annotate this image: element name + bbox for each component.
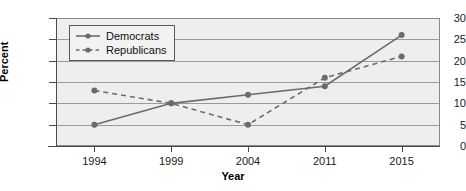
x-tick-mark — [248, 146, 249, 152]
x-axis-line — [48, 146, 440, 147]
x-tick-label: 2011 — [313, 155, 337, 167]
chart-legend: Democrats Republicans — [69, 25, 175, 61]
y-tick-mark — [49, 61, 56, 62]
x-tick-mark — [402, 146, 403, 152]
legend-key-solid-line-icon — [75, 30, 101, 42]
y-axis-label: Percent — [0, 42, 10, 82]
x-tick-label: 2015 — [389, 155, 413, 167]
legend-item-democrats: Democrats — [75, 29, 167, 43]
y-tick-mark — [49, 18, 56, 19]
y-tick-mark — [49, 103, 56, 104]
y-tick-label: 15 — [422, 76, 466, 88]
y-axis-line — [56, 18, 57, 146]
x-tick-label: 1999 — [159, 155, 183, 167]
y-tick-mark — [49, 82, 56, 83]
gridline — [57, 103, 439, 104]
x-tick-mark — [94, 146, 95, 152]
y-tick-label: 5 — [422, 119, 466, 131]
y-tick-label: 20 — [422, 55, 466, 67]
legend-label-republicans: Republicans — [106, 44, 167, 56]
gridline — [57, 125, 439, 126]
y-tick-label: 30 — [422, 12, 466, 24]
y-tick-mark — [49, 125, 56, 126]
x-tick-mark — [171, 146, 172, 152]
line-chart-figure: 051015202530 Percent 1994199920042011201… — [0, 0, 466, 191]
legend-item-republicans: Republicans — [75, 43, 167, 57]
legend-label-democrats: Democrats — [106, 30, 159, 42]
y-tick-label: 25 — [422, 33, 466, 45]
x-tick-mark — [325, 146, 326, 152]
y-tick-label: 10 — [422, 97, 466, 109]
gridline — [57, 82, 439, 83]
x-tick-label: 2004 — [236, 155, 260, 167]
y-tick-mark — [49, 39, 56, 40]
legend-key-dashed-line-icon — [75, 44, 101, 56]
x-tick-label: 1994 — [82, 155, 106, 167]
x-axis-label: Year — [0, 170, 466, 182]
